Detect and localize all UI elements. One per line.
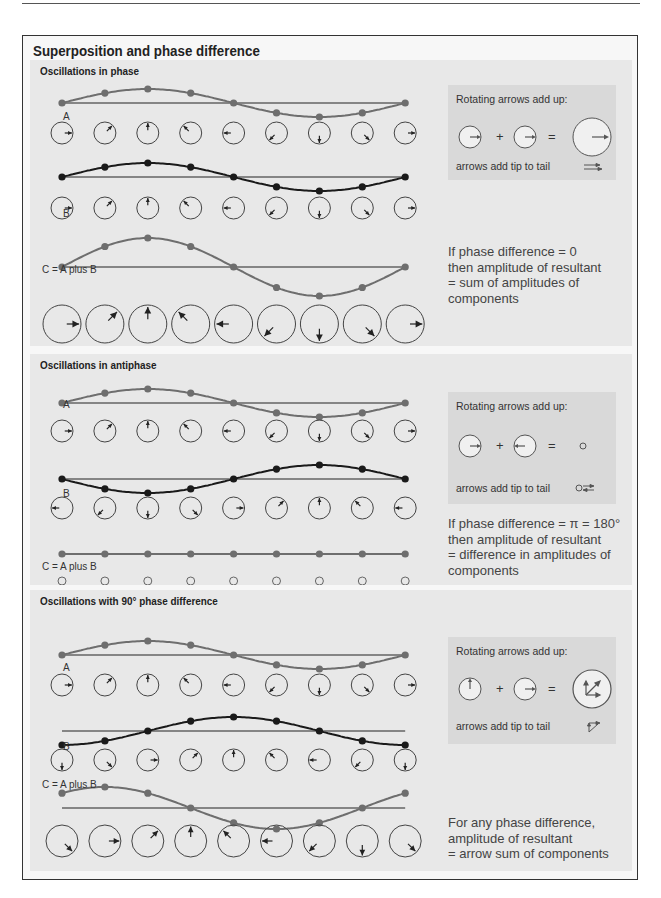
- phasor-circle-icon: [303, 825, 335, 857]
- phasor-circle-icon: [94, 497, 116, 519]
- phasor-circle-icon: [51, 674, 73, 696]
- phasors-a: [51, 420, 416, 442]
- tip-to-tail-label: arrows add tip to tail: [456, 720, 550, 732]
- note-line: components: [448, 563, 638, 579]
- note-line: then amplitude of resultant: [448, 532, 638, 548]
- wave-label-c: C = A plus B: [42, 779, 97, 790]
- phasor-a-icon: [459, 435, 481, 457]
- phasor-circle-icon: [215, 305, 253, 343]
- wave-a: [58, 85, 408, 120]
- phasor-circle-icon: [343, 305, 381, 343]
- phasor-circle-icon: [89, 825, 121, 857]
- tip-to-tail-icon: [576, 485, 594, 492]
- phasor-circle-icon: [351, 674, 373, 696]
- top-rule: [22, 3, 640, 4]
- wave-label-b: B: [63, 488, 70, 499]
- phasor-circle-icon: [86, 305, 124, 343]
- phasors-a: [51, 122, 416, 144]
- svg-text:+: +: [496, 681, 504, 696]
- note-line: then amplitude of resultant: [448, 260, 638, 276]
- phasor-circle-icon: [266, 674, 288, 696]
- phasor-circle-icon: [129, 305, 167, 343]
- svg-text:=: =: [548, 129, 556, 144]
- phasor-circle-icon: [266, 497, 288, 519]
- phasor-circle-icon: [346, 825, 378, 857]
- wave-label-b: B: [63, 741, 70, 752]
- phasor-circle-icon: [223, 674, 245, 696]
- tip-to-tail-icon: [588, 722, 601, 733]
- tip-to-tail-label: arrows add tip to tail: [456, 160, 550, 172]
- phasor-circle-icon: [137, 497, 159, 519]
- phasor-circle-icon: [266, 749, 288, 771]
- phasor-circle-icon: [94, 749, 116, 771]
- phasor-circle-icon: [351, 420, 373, 442]
- tip-to-tail-label: arrows add tip to tail: [456, 482, 550, 494]
- phasor-circle-icon: [218, 825, 250, 857]
- phasor-circle-icon: [394, 122, 416, 144]
- wave-c: [58, 234, 408, 299]
- phasor-b-icon: [514, 126, 536, 148]
- tip-to-tail-icon: [584, 164, 602, 171]
- phasor-circle-icon: [351, 497, 373, 519]
- phasor-circle-icon: [137, 420, 159, 442]
- phasor-circle-icon: [300, 305, 338, 343]
- note-line: amplitude of resultant: [448, 831, 638, 847]
- phasors-b: [51, 749, 416, 771]
- phasor-circle-icon: [132, 825, 164, 857]
- phasor-b-icon: [514, 435, 536, 457]
- phasor-a-icon: [459, 126, 481, 148]
- note-line: If phase difference = 0: [448, 244, 638, 260]
- figure-title: Superposition and phase difference: [33, 43, 260, 59]
- phasor-circle-icon: [386, 305, 424, 343]
- svg-text:+: +: [496, 129, 504, 144]
- phasor-circle-icon: [223, 497, 245, 519]
- note-line: = difference in amplitudes of: [448, 547, 638, 563]
- phasor-circle-icon: [94, 197, 116, 219]
- phasors-b: [51, 497, 416, 519]
- rotating-arrows-box: Rotating arrows add up: + = arrows add t…: [448, 637, 616, 744]
- phasor-circle-icon: [308, 420, 330, 442]
- phasor-circle-icon: [223, 749, 245, 771]
- svg-text:=: =: [548, 438, 556, 453]
- phasor-circle-icon: [394, 197, 416, 219]
- phasor-circle-icon: [223, 197, 245, 219]
- phasor-a-icon: [459, 678, 481, 700]
- phasor-circle-icon: [51, 749, 73, 771]
- phasor-circle-icon: [137, 122, 159, 144]
- phasor-b-icon: [514, 678, 536, 700]
- in-phase-wave-diagram: [30, 60, 440, 346]
- phasor-circle-icon: [266, 197, 288, 219]
- phasor-circle-icon: [351, 122, 373, 144]
- note-line: components: [448, 291, 638, 307]
- panel-in-phase: Oscillations in phase A B C = A plus B R…: [30, 60, 632, 346]
- phasor-circle-icon: [137, 197, 159, 219]
- phasor-circle-icon: [180, 749, 202, 771]
- antiphase-wave-diagram: [30, 354, 440, 585]
- phasor-sum-icon: [573, 118, 611, 156]
- phasor-circle-icon: [394, 420, 416, 442]
- phasor-circle-icon: [180, 197, 202, 219]
- phasor-circle-icon: [180, 420, 202, 442]
- phasor-circle-icon: [137, 749, 159, 771]
- phasor-circle-icon: [51, 497, 73, 519]
- wave-c: [58, 550, 408, 557]
- phasor-circle-icon: [94, 420, 116, 442]
- ninety-degree-wave-diagram: [30, 590, 440, 871]
- phasor-circle-icon: [223, 420, 245, 442]
- phasor-circle-icon: [389, 825, 421, 857]
- phasor-circle-icon: [394, 497, 416, 519]
- phasor-circle-icon: [223, 122, 245, 144]
- wave-label-a: A: [63, 662, 70, 673]
- wave-label-a: A: [63, 399, 70, 410]
- phasor-zero-icon: [580, 443, 586, 449]
- phasor-circle-icon: [394, 674, 416, 696]
- svg-text:=: =: [548, 681, 556, 696]
- wave-b: [58, 461, 408, 496]
- wave-label-c: C = A plus B: [42, 264, 97, 275]
- phasor-circle-icon: [94, 122, 116, 144]
- phasor-circle-icon: [266, 420, 288, 442]
- phasors-a: [51, 674, 416, 696]
- phasor-circle-icon: [180, 497, 202, 519]
- phasor-circle-icon: [308, 122, 330, 144]
- phasor-circle-icon: [137, 674, 159, 696]
